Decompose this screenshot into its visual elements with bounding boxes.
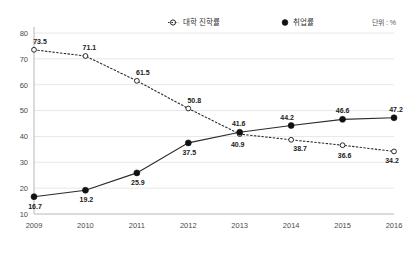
data-point-marker bbox=[32, 47, 37, 52]
legend-label-enrollment: 대학 진학률 bbox=[183, 17, 220, 27]
data-point-label: 47.2 bbox=[389, 106, 403, 113]
x-tick-label: 2011 bbox=[129, 221, 145, 230]
data-point-marker bbox=[83, 54, 88, 59]
data-point-marker bbox=[391, 115, 397, 121]
unit-note: 단위 : % bbox=[372, 18, 396, 27]
data-point-marker bbox=[186, 106, 191, 111]
y-tick-label: 50 bbox=[20, 106, 28, 115]
y-tick-label: 80 bbox=[20, 29, 28, 38]
y-tick-label: 70 bbox=[20, 55, 28, 64]
data-point-label: 73.5 bbox=[33, 38, 47, 45]
x-tick-label: 2014 bbox=[283, 221, 300, 230]
x-tick-label: 2015 bbox=[334, 221, 351, 230]
x-tick-label: 2013 bbox=[231, 221, 248, 230]
chart-legend: 대학 진학률 취업률 단위 : % bbox=[168, 17, 396, 27]
y-tick-label: 20 bbox=[20, 184, 28, 193]
data-point-marker bbox=[134, 78, 139, 83]
legend-marker-employment-icon bbox=[282, 20, 288, 26]
data-point-marker bbox=[340, 143, 345, 148]
data-point-label: 37.5 bbox=[182, 149, 196, 156]
data-point-label: 25.9 bbox=[131, 179, 145, 186]
data-point-label: 16.7 bbox=[28, 203, 42, 210]
data-point-marker bbox=[237, 129, 243, 135]
data-point-label: 61.5 bbox=[136, 69, 150, 76]
data-point-marker bbox=[288, 123, 294, 129]
x-tick-label: 2012 bbox=[180, 221, 197, 230]
data-point-marker bbox=[31, 194, 37, 200]
data-point-label: 38.7 bbox=[293, 145, 307, 152]
data-point-label: 44.2 bbox=[280, 114, 294, 121]
chart-container: 1020304050607080 20092010201120122013201… bbox=[0, 0, 404, 257]
data-point-marker bbox=[82, 187, 88, 193]
y-tick-label: 10 bbox=[20, 210, 28, 219]
x-axis-tick-labels: 20092010201120122013201420152016 bbox=[26, 221, 403, 230]
data-point-marker bbox=[134, 170, 140, 176]
data-point-label: 46.6 bbox=[336, 107, 350, 114]
x-tick-label: 2010 bbox=[77, 221, 94, 230]
y-tick-label: 40 bbox=[20, 132, 28, 141]
data-point-marker bbox=[289, 137, 294, 142]
data-point-marker bbox=[392, 149, 397, 154]
data-point-marker bbox=[340, 116, 346, 122]
y-tick-label: 30 bbox=[20, 158, 28, 167]
data-point-label: 34.2 bbox=[385, 157, 399, 164]
data-point-label: 19.2 bbox=[80, 196, 94, 203]
line-chart: 1020304050607080 20092010201120122013201… bbox=[0, 0, 404, 257]
x-tick-label: 2016 bbox=[386, 221, 403, 230]
data-point-label: 50.8 bbox=[187, 97, 201, 104]
x-tick-label: 2009 bbox=[26, 221, 43, 230]
data-point-label: 36.6 bbox=[338, 152, 352, 159]
y-tick-label: 60 bbox=[20, 81, 28, 90]
data-point-label: 41.6 bbox=[232, 120, 246, 127]
legend-label-employment: 취업률 bbox=[293, 18, 314, 27]
data-point-label: 71.1 bbox=[83, 44, 97, 51]
data-point-marker bbox=[185, 140, 191, 146]
y-axis-tick-labels: 1020304050607080 bbox=[20, 29, 28, 219]
data-point-label: 40.9 bbox=[231, 141, 245, 148]
